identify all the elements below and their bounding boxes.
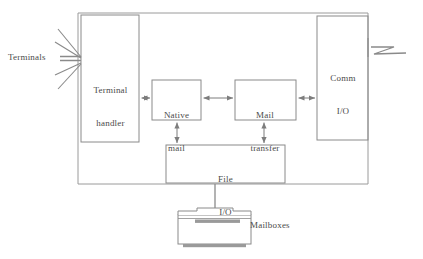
terminal-handler-label: Terminal handler [83, 63, 138, 151]
native-mail-label-line1: Native [152, 110, 201, 121]
terminal-handler-label-line1: Terminal [83, 85, 138, 96]
file-io-label-line2: I/O [166, 207, 285, 218]
mail-transfer-label-line1: Mail [234, 110, 296, 121]
terminal-handler-label-line2: handler [83, 118, 138, 129]
diagram-canvas: Terminals Terminal handler Native mail M… [0, 0, 423, 259]
terminals-label: Terminals [8, 52, 64, 63]
comm-io-label: Comm I/O [318, 51, 368, 139]
file-io-label-line1: File [166, 174, 285, 185]
mailboxes-label: Mailboxes [250, 220, 310, 231]
network-link-zigzag-icon [368, 38, 406, 57]
comm-io-label-line1: Comm [318, 73, 368, 84]
comm-io-label-line2: I/O [318, 106, 368, 117]
